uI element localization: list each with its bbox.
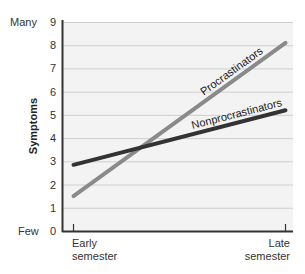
y-label-many: Many [10,16,37,28]
line-chart: 0123456789 Many Few Symptoms Early semes… [0,0,305,274]
y-tick-label: 7 [50,62,56,74]
y-tick-label: 1 [50,202,56,214]
y-tick-labels: 0123456789 [50,16,56,237]
y-axis-title: Symptoms [27,98,39,154]
y-tick-label: 9 [50,16,56,28]
y-tick-label: 6 [50,86,56,98]
x-label-early-1: Early [72,237,98,249]
y-tick-label: 4 [50,132,56,144]
y-tick-label: 8 [50,39,56,51]
x-label-late-1: Late [269,237,290,249]
x-label-late-2: semester [245,250,291,262]
x-label-early-2: semester [72,250,118,262]
y-tick-label: 0 [50,225,56,237]
y-label-few: Few [18,225,39,237]
y-tick-label: 5 [50,109,56,121]
y-tick-label: 3 [50,155,56,167]
y-tick-label: 2 [50,179,56,191]
